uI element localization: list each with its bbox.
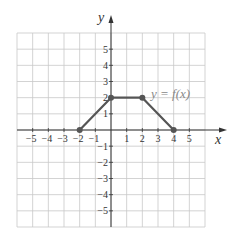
- svg-text:2: 2: [140, 133, 145, 144]
- svg-text:4: 4: [103, 60, 108, 71]
- function-graph: −5−4−3−2−11234554321−1−2−3−4−5 y = f(x) …: [0, 0, 236, 239]
- svg-text:−5: −5: [26, 133, 37, 144]
- svg-text:−2: −2: [97, 157, 108, 168]
- svg-text:1: 1: [103, 108, 108, 119]
- x-axis-label: x: [214, 132, 222, 147]
- function-label: y = f(x): [149, 86, 190, 101]
- svg-text:4: 4: [171, 133, 176, 144]
- svg-text:−4: −4: [42, 133, 53, 144]
- svg-text:−4: −4: [97, 189, 108, 200]
- svg-text:3: 3: [156, 133, 161, 144]
- y-axis-label: y: [96, 10, 105, 25]
- svg-text:5: 5: [187, 133, 192, 144]
- svg-text:−2: −2: [73, 133, 84, 144]
- svg-text:−3: −3: [97, 173, 108, 184]
- svg-text:5: 5: [103, 44, 108, 55]
- svg-text:3: 3: [103, 76, 108, 87]
- svg-text:−5: −5: [97, 205, 108, 216]
- svg-text:1: 1: [124, 133, 129, 144]
- svg-text:−3: −3: [57, 133, 68, 144]
- svg-text:−1: −1: [97, 141, 108, 152]
